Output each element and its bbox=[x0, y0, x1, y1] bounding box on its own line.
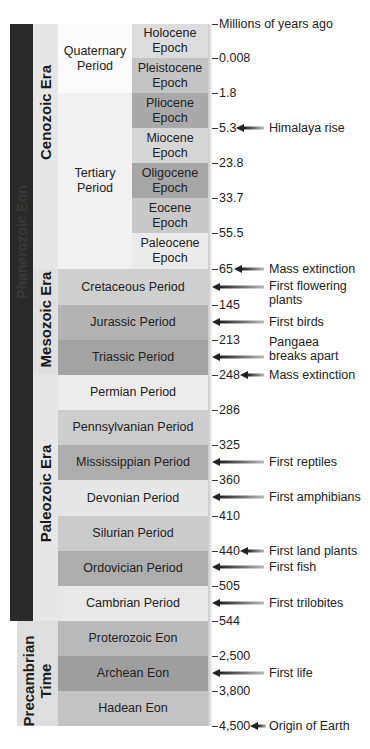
arrow-pangaea-icon bbox=[212, 353, 264, 361]
event-first-land-plants: First land plants bbox=[269, 544, 357, 558]
arrow-mass-extinction-65-icon bbox=[234, 265, 264, 273]
arrow-birds-icon bbox=[212, 318, 264, 326]
event-first-reptiles: First reptiles bbox=[269, 455, 337, 469]
event-mass-extinction-248: Mass extinction bbox=[269, 368, 355, 382]
event-himalaya-rise: Himalaya rise bbox=[269, 121, 345, 135]
event-first-fish: First fish bbox=[269, 560, 316, 574]
arrow-himalaya-icon bbox=[236, 124, 264, 132]
event-pangaea-breaks-apart: Pangaea breaks apart bbox=[269, 335, 349, 363]
event-first-flowering-plants: First flowering plants bbox=[269, 279, 349, 307]
event-mass-extinction-65: Mass extinction bbox=[269, 262, 355, 276]
event-origin-of-earth: Origin of Earth bbox=[269, 719, 350, 733]
arrow-mass-extinction-248-icon bbox=[240, 371, 264, 379]
event-first-trilobites: First trilobites bbox=[269, 596, 343, 610]
arrow-amphibians-icon bbox=[212, 493, 264, 501]
event-first-life: First life bbox=[269, 666, 313, 680]
arrow-origin-earth-icon bbox=[250, 722, 266, 730]
arrow-trilobites-icon bbox=[212, 599, 264, 607]
arrow-first-life-icon bbox=[212, 669, 264, 677]
arrow-flowering-icon bbox=[212, 283, 264, 291]
arrow-reptiles-icon bbox=[212, 458, 264, 466]
arrow-land-plants-icon bbox=[240, 547, 264, 555]
arrow-fish-icon bbox=[212, 563, 264, 571]
event-first-amphibians: First amphibians bbox=[269, 490, 361, 504]
event-first-birds: First birds bbox=[269, 315, 324, 329]
